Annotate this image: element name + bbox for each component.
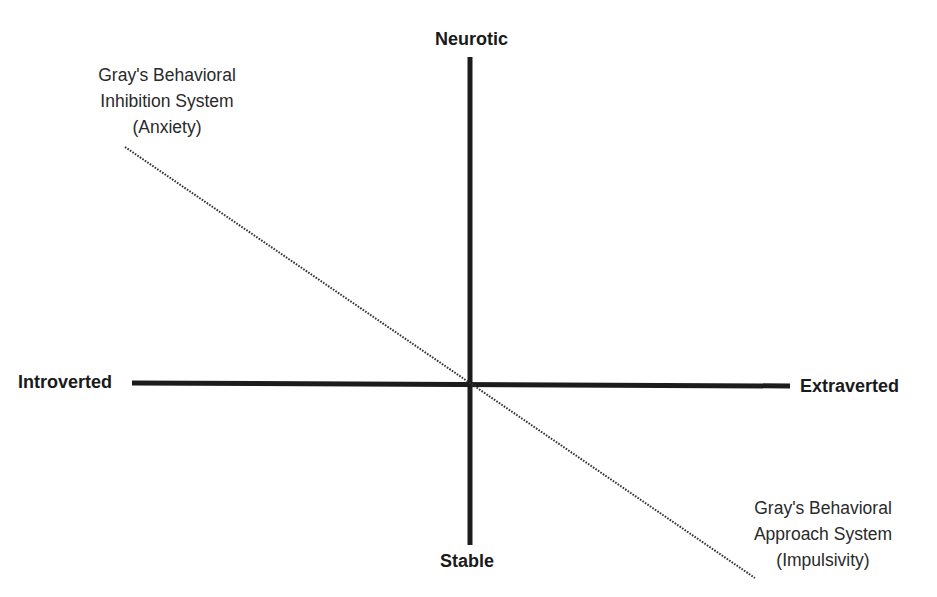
- bis-line-1: Gray's Behavioral: [77, 62, 257, 88]
- neurotic-label: Neurotic: [435, 29, 508, 50]
- bis-line-3: (Anxiety): [77, 114, 257, 140]
- introverted-label: Introverted: [18, 372, 112, 393]
- extraverted-label: Extraverted: [800, 376, 899, 397]
- horizontal-axis-introverted-extraverted: [132, 383, 790, 386]
- behavioral-inhibition-system-label: Gray's Behavioral Inhibition System (Anx…: [77, 62, 257, 140]
- bas-line-2: Approach System: [733, 521, 913, 547]
- stable-label: Stable: [440, 551, 494, 572]
- diagonal-gray-bis-bas-line: [125, 147, 755, 578]
- personality-diagram: Neurotic Stable Introverted Extraverted …: [0, 0, 937, 597]
- behavioral-approach-system-label: Gray's Behavioral Approach System (Impul…: [733, 495, 913, 573]
- bis-line-2: Inhibition System: [77, 88, 257, 114]
- bas-line-1: Gray's Behavioral: [733, 495, 913, 521]
- bas-line-3: (Impulsivity): [733, 547, 913, 573]
